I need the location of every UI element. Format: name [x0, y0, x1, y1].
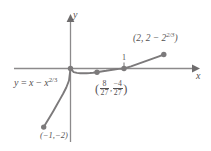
equation-equals: =: [18, 77, 29, 88]
point-marker-x-intercept: [121, 66, 126, 71]
x-axis-label: x: [196, 71, 200, 81]
figure-graph-of-function: y x 1 y = x − x2/3 (2, 2 − 22/3) (827,−4…: [0, 0, 211, 151]
point-marker-minimum: [94, 70, 99, 75]
point-label-right: (2, 2 − 22/3): [133, 34, 178, 44]
point-marker-right: [161, 52, 166, 57]
equation-rhs-exponent: 2/3: [49, 76, 58, 83]
point-right-y-lead: 2 − 2: [146, 33, 167, 43]
equation-minus: −: [34, 77, 45, 88]
point-min-x-fraction: 827: [100, 80, 110, 97]
point-min-y-fraction: −427: [113, 80, 123, 97]
x-tick-label-1: 1: [122, 54, 126, 62]
point-label-minimum: (827,−427): [95, 80, 127, 97]
point-right-y-exponent: 2/3: [166, 31, 174, 38]
point-min-close-paren: ): [123, 82, 127, 96]
point-marker-origin: [68, 66, 73, 71]
point-min-open-paren: (: [95, 82, 99, 96]
y-axis-label: y: [73, 10, 77, 20]
equation-label: y = x − x2/3: [14, 78, 57, 88]
point-label-left: (−1,−2): [40, 131, 68, 140]
plot-canvas: [0, 0, 211, 151]
point-min-y-denominator: 27: [113, 89, 123, 97]
point-left-text: (−1,−2): [40, 130, 68, 140]
point-min-x-denominator: 27: [100, 89, 110, 97]
point-marker-left: [41, 124, 46, 129]
point-right-close-paren: ): [175, 33, 178, 43]
